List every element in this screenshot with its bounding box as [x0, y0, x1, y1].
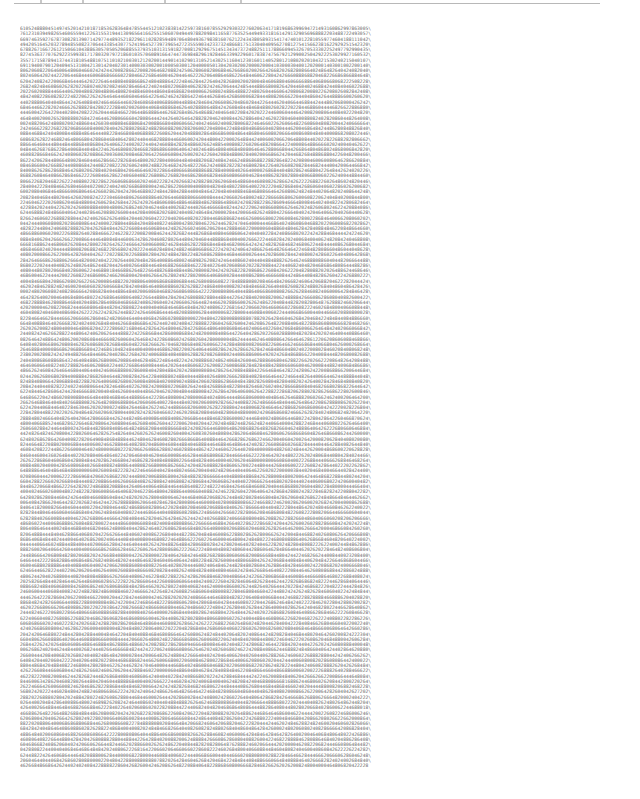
- top-tick: [164, 0, 166, 3]
- top-tick: [240, 0, 242, 3]
- number-line: 4626684866864262440240240842288882286042…: [20, 763, 620, 768]
- number-dump-text: 6105248880451497452014210187185362836484…: [20, 26, 620, 768]
- top-tick: [82, 0, 84, 3]
- top-tick: [40, 0, 42, 3]
- top-rule: [14, 3, 600, 4]
